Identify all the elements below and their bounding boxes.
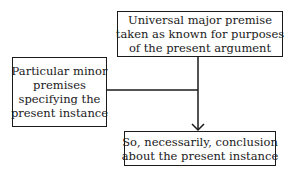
syllogism-diagram: Universal major premise taken as known f… xyxy=(0,0,293,176)
minor-premises-line-1: Particular minor xyxy=(12,64,108,78)
major-premise-line-2: taken as known for purposes xyxy=(116,27,284,41)
conclusion-line-2: about the present instance xyxy=(122,149,279,163)
minor-premises-line-2: premises xyxy=(33,78,86,92)
conclusion-line-1: So, necessarily, conclusion xyxy=(122,135,278,149)
minor-premises-line-4: present instance xyxy=(11,106,108,120)
major-premise-line-1: Universal major premise xyxy=(128,13,272,27)
minor-premises-line-3: specifying the xyxy=(19,92,101,106)
conclusion-box: So, necessarily, conclusion about the pr… xyxy=(124,131,276,166)
minor-premises-box: Particular minor premises specifying the… xyxy=(12,57,107,127)
major-premise-box: Universal major premise taken as known f… xyxy=(117,11,283,57)
major-premise-line-3: of the present argument xyxy=(129,41,271,55)
